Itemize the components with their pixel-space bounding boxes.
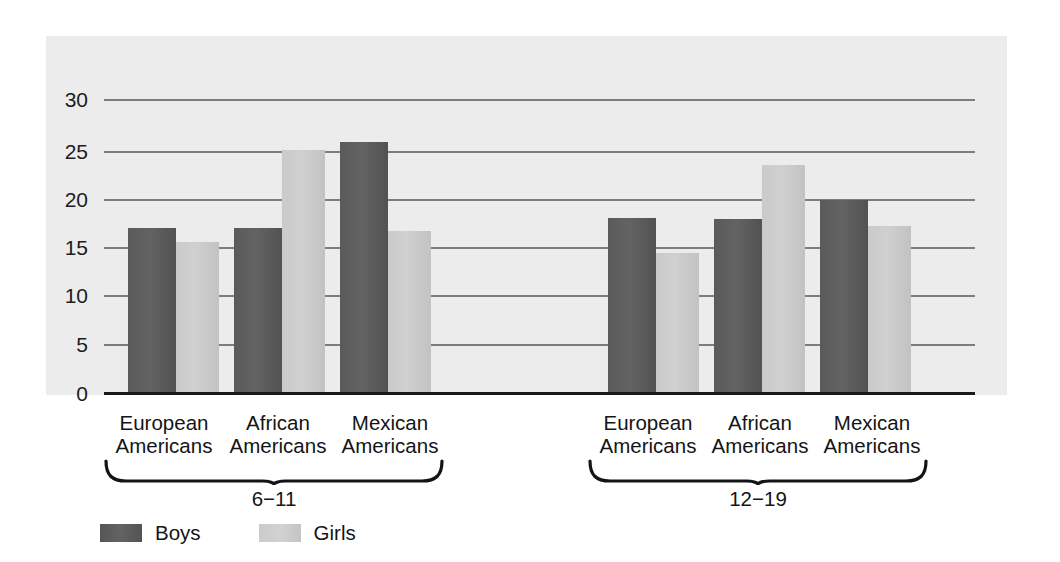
group-brace-12-19 bbox=[588, 459, 928, 489]
category-label-g2-european: European Americans bbox=[588, 412, 708, 458]
category-label-g2-mexican: Mexican Americans bbox=[812, 412, 932, 458]
group-label-12-19: 12−19 bbox=[678, 487, 838, 511]
legend-item-boys[interactable]: Boys bbox=[100, 521, 201, 545]
bar-g2-european-boys[interactable] bbox=[608, 218, 656, 393]
bar-g2-european-girls[interactable] bbox=[656, 253, 699, 393]
legend-item-girls[interactable]: Girls bbox=[259, 521, 356, 545]
category-label-g1-european: European Americans bbox=[104, 412, 224, 458]
group-label-6-11: 6−11 bbox=[194, 487, 354, 511]
category-label-g1-mexican: Mexican Americans bbox=[330, 412, 450, 458]
legend-label-girls: Girls bbox=[314, 521, 356, 545]
legend-swatch-boys-icon bbox=[100, 524, 142, 542]
x-axis-line bbox=[104, 392, 975, 395]
bar-g2-african-girls[interactable] bbox=[762, 165, 805, 393]
group-brace-6-11 bbox=[104, 459, 444, 489]
bar-chart-figure: 30 25 20 15 10 5 0 bbox=[0, 0, 1060, 562]
bars-layer bbox=[0, 0, 1060, 393]
legend: Boys Girls bbox=[100, 521, 356, 545]
category-label-g1-african: African Americans bbox=[218, 412, 338, 458]
bar-g2-mexican-boys[interactable] bbox=[820, 200, 868, 393]
bar-g1-african-girls[interactable] bbox=[282, 150, 325, 393]
bar-g2-african-boys[interactable] bbox=[714, 219, 762, 393]
bar-g1-mexican-girls[interactable] bbox=[388, 231, 431, 393]
bar-g1-african-boys[interactable] bbox=[234, 228, 282, 393]
legend-label-boys: Boys bbox=[155, 521, 201, 545]
legend-swatch-girls-icon bbox=[259, 524, 301, 542]
bar-g1-european-boys[interactable] bbox=[128, 228, 176, 393]
bar-g1-mexican-boys[interactable] bbox=[340, 142, 388, 393]
category-label-g2-african: African Americans bbox=[700, 412, 820, 458]
bar-g1-european-girls[interactable] bbox=[176, 242, 219, 393]
bar-g2-mexican-girls[interactable] bbox=[868, 226, 911, 393]
